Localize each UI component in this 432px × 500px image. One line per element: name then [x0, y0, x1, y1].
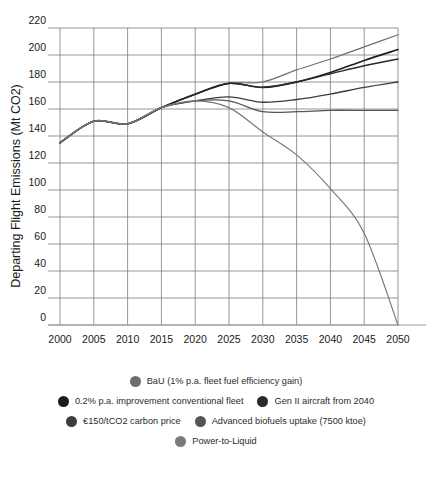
legend-swatch-dot-icon — [66, 416, 77, 427]
legend-swatch-dot-icon — [130, 376, 141, 387]
y-tick-label: 180 — [28, 68, 46, 80]
x-axis-tick-labels: 2000200520102015202020252030203520402045… — [48, 333, 410, 345]
legend-entry[interactable]: 0.2% p.a. improvement conventional fleet — [58, 396, 244, 407]
y-tick-label: 40 — [34, 257, 46, 269]
y-tick-label: 140 — [28, 122, 46, 134]
x-tick-label: 2045 — [353, 333, 377, 345]
y-tick-label: 120 — [28, 149, 46, 161]
grid-lines — [48, 28, 398, 325]
chart-legend: BaU (1% p.a. fleet fuel efficiency gain)… — [0, 376, 432, 456]
legend-entry-label: Power-to-Liquid — [192, 436, 256, 447]
legend-row: Power-to-Liquid — [0, 436, 432, 447]
legend-entry[interactable]: €150/tCO2 carbon price — [66, 416, 181, 427]
y-tick-label: 160 — [28, 95, 46, 107]
legend-entry[interactable]: Power-to-Liquid — [175, 436, 256, 447]
legend-entry[interactable]: BaU (1% p.a. fleet fuel efficiency gain) — [130, 376, 303, 387]
legend-swatch-dot-icon — [257, 396, 268, 407]
legend-swatch-dot-icon — [195, 416, 206, 427]
x-tick-label: 2050 — [386, 333, 410, 345]
legend-entry-label: €150/tCO2 carbon price — [83, 416, 181, 427]
y-tick-label: 80 — [34, 203, 46, 215]
y-tick-label: 100 — [28, 176, 46, 188]
x-tick-label: 2040 — [319, 333, 343, 345]
x-tick-label: 2020 — [184, 333, 208, 345]
legend-entry[interactable]: Gen II aircraft from 2040 — [257, 396, 374, 407]
x-tick-label: 2030 — [251, 333, 275, 345]
y-axis-title: Departing Flight Emissions (Mt CO2) — [9, 84, 23, 288]
chart-canvas: 020406080100120140160180200220 200020052… — [0, 0, 432, 372]
x-tick-label: 2025 — [217, 333, 241, 345]
legend-row: 0.2% p.a. improvement conventional fleet… — [0, 396, 432, 407]
legend-row: €150/tCO2 carbon priceAdvanced biofuels … — [0, 416, 432, 427]
y-tick-label: 60 — [34, 230, 46, 242]
x-tick-label: 2010 — [116, 333, 140, 345]
x-tick-label: 2015 — [150, 333, 174, 345]
x-tick-label: 2005 — [82, 333, 106, 345]
legend-entry-label: BaU (1% p.a. fleet fuel efficiency gain) — [147, 376, 303, 387]
y-axis-tick-labels: 020406080100120140160180200220 — [28, 14, 46, 323]
figure-caption — [8, 489, 428, 500]
legend-row: BaU (1% p.a. fleet fuel efficiency gain) — [0, 376, 432, 387]
legend-entry-label: 0.2% p.a. improvement conventional fleet — [75, 396, 244, 407]
y-tick-label: 20 — [34, 284, 46, 296]
line-chart: 020406080100120140160180200220 200020052… — [0, 0, 432, 372]
x-tick-label: 2000 — [48, 333, 72, 345]
legend-swatch-dot-icon — [175, 436, 186, 447]
legend-entry-label: Gen II aircraft from 2040 — [274, 396, 374, 407]
figure-departing-flight-emissions: 020406080100120140160180200220 200020052… — [0, 0, 432, 500]
x-tick-label: 2035 — [285, 333, 309, 345]
y-tick-label: 200 — [28, 41, 46, 53]
legend-swatch-dot-icon — [58, 396, 69, 407]
legend-entry[interactable]: Advanced biofuels uptake (7500 ktoe) — [195, 416, 366, 427]
y-tick-label: 0 — [40, 311, 46, 323]
y-tick-label: 220 — [28, 14, 46, 26]
legend-entry-label: Advanced biofuels uptake (7500 ktoe) — [212, 416, 366, 427]
